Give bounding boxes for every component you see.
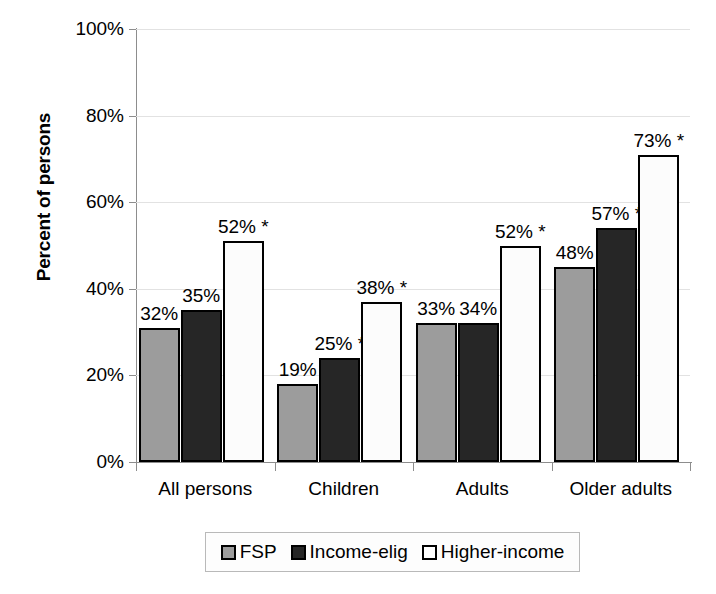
legend-item-fsp[interactable]: FSP <box>221 541 277 563</box>
legend-item-higher-income[interactable]: Higher-income <box>422 541 565 563</box>
bar-fsp-all-persons[interactable] <box>139 328 180 462</box>
legend-swatch-fsp <box>221 545 236 560</box>
bar-value-label: 48% <box>556 242 594 264</box>
x-axis-line <box>136 462 692 463</box>
y-tick-label: 0% <box>0 451 124 473</box>
bar-value-label: 25% * <box>314 333 365 355</box>
bar-chart: Percent of persons 0%20%40%60%80%100% 32… <box>0 0 716 594</box>
bar-value-label: 35% <box>182 285 220 307</box>
bar-fsp-adults[interactable] <box>416 323 457 462</box>
y-tick-label: 100% <box>0 18 124 40</box>
bar-value-label: 38% * <box>356 277 407 299</box>
x-tick-mark <box>275 462 276 471</box>
bar-value-label: 34% <box>459 298 497 320</box>
bar-value-label: 52% * <box>218 216 269 238</box>
bar-income-elig-children[interactable] <box>319 358 360 462</box>
bar-value-label: 19% <box>279 359 317 381</box>
x-tick-mark <box>690 462 691 471</box>
bar-value-label: 52% * <box>495 221 546 243</box>
bar-group: 48%57% *73% * <box>552 29 691 462</box>
x-tick-mark <box>413 462 414 471</box>
y-tick-label: 80% <box>0 105 124 127</box>
bar-higher-income-older-adults[interactable] <box>638 155 679 462</box>
legend: FSPIncome-eligHigher-income <box>205 532 580 572</box>
x-category-label-older-adults: Older adults <box>570 478 672 500</box>
bar-group: 32%35%52% * <box>136 29 275 462</box>
bar-income-elig-older-adults[interactable] <box>596 228 637 462</box>
y-tick-label: 20% <box>0 364 124 386</box>
x-category-label-all-persons: All persons <box>158 478 252 500</box>
y-tick-label: 60% <box>0 191 124 213</box>
bar-higher-income-children[interactable] <box>361 302 402 462</box>
legend-swatch-higher-income <box>422 545 437 560</box>
bar-income-elig-all-persons[interactable] <box>181 310 222 462</box>
legend-label: Income-elig <box>310 541 408 563</box>
bar-value-label: 32% <box>140 303 178 325</box>
x-tick-mark <box>136 462 137 471</box>
bar-higher-income-all-persons[interactable] <box>223 241 264 462</box>
bar-higher-income-adults[interactable] <box>500 246 541 463</box>
legend-label: FSP <box>240 541 277 563</box>
bar-fsp-older-adults[interactable] <box>554 267 595 462</box>
legend-label: Higher-income <box>441 541 565 563</box>
x-category-label-children: Children <box>308 478 379 500</box>
bar-group: 33%34%52% * <box>413 29 552 462</box>
x-category-label-adults: Adults <box>456 478 509 500</box>
bar-fsp-children[interactable] <box>277 384 318 462</box>
legend-item-income-elig[interactable]: Income-elig <box>291 541 408 563</box>
bar-value-label: 73% * <box>633 130 684 152</box>
legend-swatch-income-elig <box>291 545 306 560</box>
x-tick-mark <box>552 462 553 471</box>
bar-value-label: 57% * <box>591 203 642 225</box>
plot-area: 32%35%52% *19%25% *38% *33%34%52% *48%57… <box>136 29 690 462</box>
bar-group: 19%25% *38% * <box>275 29 414 462</box>
bar-income-elig-adults[interactable] <box>458 323 499 462</box>
bar-value-label: 33% <box>417 298 455 320</box>
y-tick-label: 40% <box>0 278 124 300</box>
